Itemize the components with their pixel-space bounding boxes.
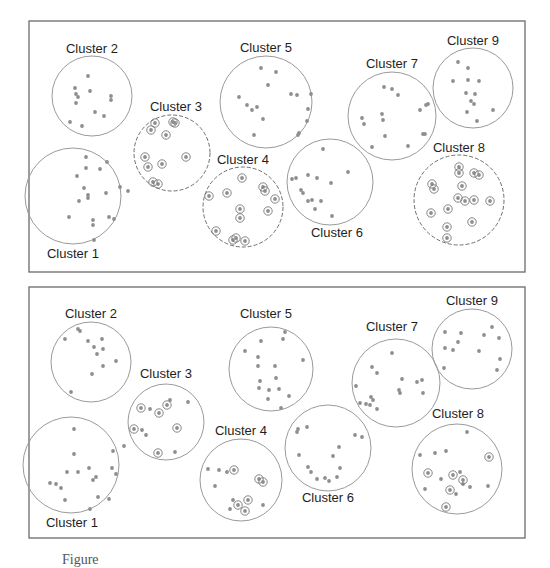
- sampled-point: [243, 239, 247, 243]
- data-point: [245, 103, 249, 107]
- data-point: [277, 387, 281, 391]
- data-point: [396, 93, 400, 97]
- data-point: [148, 407, 152, 411]
- data-point: [88, 89, 92, 93]
- data-point: [295, 93, 299, 97]
- data-point: [48, 481, 52, 485]
- data-point: [87, 466, 91, 470]
- data-point: [383, 134, 387, 138]
- data-point: [140, 428, 144, 432]
- sampled-point: [266, 209, 270, 213]
- data-point: [306, 173, 310, 177]
- data-point: [65, 470, 69, 474]
- data-point: [102, 114, 106, 118]
- data-point: [63, 498, 67, 502]
- cluster-6-label: Cluster 6: [302, 490, 354, 505]
- data-point: [495, 368, 499, 372]
- cluster-5-label: Cluster 5: [240, 40, 292, 55]
- data-point: [375, 407, 379, 411]
- sampled-point: [448, 488, 452, 492]
- sampled-point: [139, 406, 143, 410]
- data-point: [289, 92, 293, 96]
- sampled-point: [429, 211, 433, 215]
- cluster-6-label: Cluster 6: [311, 225, 363, 240]
- data-point: [206, 467, 210, 471]
- data-point: [76, 470, 80, 474]
- data-point: [256, 364, 260, 368]
- data-point: [315, 477, 319, 481]
- sampled-point: [238, 216, 242, 220]
- data-point: [327, 479, 331, 483]
- sampled-point: [157, 411, 161, 415]
- data-point: [250, 108, 254, 112]
- data-point: [107, 215, 111, 219]
- data-point: [266, 83, 270, 87]
- data-point: [368, 403, 372, 407]
- cluster-2-label: Cluster 2: [66, 41, 118, 56]
- data-point: [84, 155, 88, 159]
- data-point: [110, 466, 114, 470]
- data-point: [309, 92, 313, 96]
- data-point: [213, 484, 217, 488]
- data-point: [112, 217, 116, 221]
- data-point: [382, 85, 386, 89]
- sampled-point: [246, 498, 250, 502]
- data-point: [330, 214, 334, 218]
- data-point: [331, 454, 335, 458]
- data-point: [279, 406, 283, 410]
- data-point: [390, 87, 394, 91]
- sampled-point: [238, 207, 242, 211]
- data-point: [305, 425, 309, 429]
- data-point: [381, 118, 385, 122]
- sampled-point: [165, 403, 169, 407]
- data-point: [72, 452, 76, 456]
- data-point: [301, 191, 305, 195]
- data-point: [59, 486, 63, 490]
- sampled-point: [263, 189, 267, 193]
- data-point: [451, 79, 455, 83]
- data-point: [301, 358, 305, 362]
- sampled-point: [472, 198, 476, 202]
- data-point: [90, 372, 94, 376]
- sampled-point: [445, 236, 449, 240]
- panel-top: Cluster 1Cluster 2Cluster 3Cluster 4Clus…: [25, 21, 525, 272]
- data-point: [337, 445, 341, 449]
- data-point: [80, 124, 84, 128]
- data-point: [82, 186, 86, 190]
- data-point: [91, 218, 95, 222]
- data-point: [313, 207, 317, 211]
- data-point: [104, 191, 108, 195]
- data-point: [498, 357, 502, 361]
- data-point: [91, 223, 95, 227]
- data-point: [442, 366, 446, 370]
- data-point: [371, 398, 375, 402]
- data-point: [335, 475, 339, 479]
- data-point: [362, 122, 366, 126]
- data-point: [173, 450, 177, 454]
- sampled-point: [146, 165, 150, 169]
- data-point: [114, 359, 118, 363]
- data-point: [418, 453, 422, 457]
- data-point: [466, 66, 470, 70]
- data-point: [477, 79, 481, 83]
- data-point: [305, 119, 309, 123]
- data-point: [54, 482, 58, 486]
- data-point: [274, 70, 278, 74]
- data-point: [109, 98, 113, 102]
- data-point: [315, 176, 319, 180]
- data-point: [370, 145, 374, 149]
- data-point: [309, 470, 313, 474]
- data-point: [95, 352, 99, 356]
- data-point: [426, 102, 430, 106]
- data-point: [92, 345, 96, 349]
- sampled-point: [432, 187, 436, 191]
- data-point: [63, 337, 67, 341]
- data-point: [468, 485, 472, 489]
- data-point: [259, 66, 263, 70]
- cluster-2-label: Cluster 2: [65, 306, 117, 321]
- data-point: [86, 196, 90, 200]
- data-point: [454, 492, 458, 496]
- data-point: [255, 105, 259, 109]
- data-point: [101, 347, 105, 351]
- data-point: [114, 472, 118, 476]
